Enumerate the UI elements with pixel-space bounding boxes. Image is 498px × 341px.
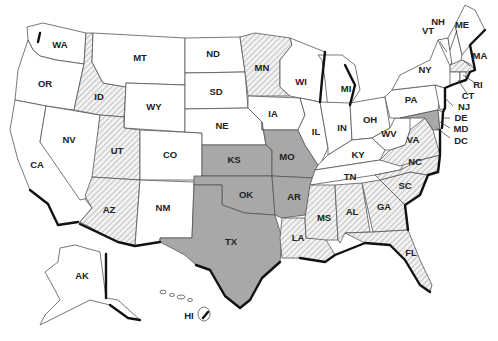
label-ME: ME [455,19,469,30]
label-IA: IA [268,108,278,119]
label-AL: AL [346,206,359,217]
label-AR: AR [287,191,301,202]
label-WY: WY [146,101,162,112]
label-NM: NM [156,202,171,213]
label-ND: ND [206,48,220,59]
label-AK: AK [75,270,89,281]
us-states-map: WA OR CA NV ID MT WY UT AZ CO NM ND SD N… [0,0,498,341]
label-CA: CA [30,159,44,170]
label-GA: GA [377,201,391,212]
label-WV: WV [381,128,397,139]
label-WI: WI [295,76,307,87]
label-MI: MI [341,83,352,94]
label-NY: NY [418,64,432,75]
state-AK[interactable] [40,245,140,325]
label-UT: UT [111,145,124,156]
label-DE: DE [454,112,467,123]
label-NC: NC [408,156,422,167]
label-FL: FL [405,247,417,258]
label-NE: NE [215,120,228,131]
label-RI: RI [473,79,483,90]
label-VA: VA [407,134,420,145]
label-KY: KY [351,149,365,160]
label-MS: MS [317,212,331,223]
label-HI: HI [184,310,194,321]
label-NV: NV [62,134,76,145]
label-MT: MT [133,52,147,63]
label-MA: MA [473,50,488,61]
label-LA: LA [292,232,305,243]
label-IL: IL [312,126,321,137]
label-PA: PA [405,94,418,105]
label-SD: SD [209,86,222,97]
label-SC: SC [398,180,411,191]
label-NJ: NJ [458,101,470,112]
label-WA: WA [52,39,67,50]
label-MN: MN [255,62,270,73]
label-MO: MO [279,151,294,162]
label-NH: NH [431,16,445,27]
label-IN: IN [337,122,347,133]
label-TN: TN [344,171,357,182]
label-AZ: AZ [103,204,116,215]
label-OR: OR [38,78,52,89]
label-TX: TX [225,236,238,247]
label-OK: OK [239,189,253,200]
label-CT: CT [462,90,475,101]
label-CO: CO [163,149,177,160]
label-MD: MD [454,123,469,134]
state-NM[interactable] [135,180,194,246]
label-OH: OH [363,114,377,125]
label-DC: DC [454,135,468,146]
label-ID: ID [94,91,104,102]
label-KS: KS [227,154,240,165]
